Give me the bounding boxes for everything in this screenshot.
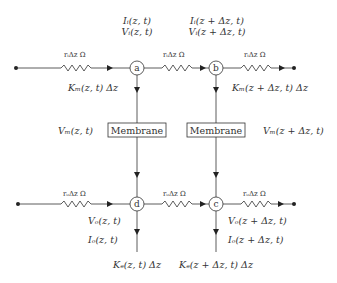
resistor-inner-mid xyxy=(162,65,192,71)
label-Vo-c: Vₒ(z + Δz, t) xyxy=(228,215,287,226)
label-Vm-left: Vₘ(z, t) xyxy=(58,125,93,136)
label-Vi-b: Vᵢ(z + Δz, t) xyxy=(189,26,246,37)
label-Ke-c: Kₑ(z + Δz, t) Δz xyxy=(178,259,254,270)
label-Ke-d: Kₑ(z, t) Δz xyxy=(112,259,162,270)
resistor-outer-mid xyxy=(162,201,192,207)
resistor-label-outer-left: rₒΔz Ω xyxy=(63,190,86,198)
label-Io-c: Iₒ(z + Δz, t) xyxy=(227,234,284,245)
resistor-label-outer-mid: rₒΔz Ω xyxy=(163,190,186,198)
label-Ii-a: Iᵢ(z, t) xyxy=(122,15,151,26)
resistor-inner-left xyxy=(61,65,91,71)
resistor-outer-left xyxy=(61,201,91,207)
node-a-label: a xyxy=(134,63,140,73)
membrane-left-label: Membrane xyxy=(111,125,164,136)
membrane-right-label: Membrane xyxy=(190,125,243,136)
resistor-inner-right xyxy=(241,65,271,71)
terminal-dot-outer-right xyxy=(292,202,296,206)
resistor-label-inner-mid: rᵢΔz Ω xyxy=(163,51,185,59)
label-Km-b: Kₘ(z + Δz, t) Δz xyxy=(231,82,309,93)
node-d-label: d xyxy=(134,199,140,209)
node-b-label: b xyxy=(213,63,219,73)
label-Io-d: Iₒ(z, t) xyxy=(87,234,118,245)
resistor-label-inner-right: rᵢΔz Ω xyxy=(244,51,266,59)
label-Vo-d: Vₒ(z, t) xyxy=(88,215,121,226)
terminal-dot-inner-right xyxy=(292,66,296,70)
label-Km-a: Kₘ(z, t) Δz xyxy=(67,82,119,93)
node-c-label: c xyxy=(213,199,218,209)
label-Vm-right: Vₘ(z + Δz, t) xyxy=(263,125,324,136)
resistor-label-outer-right: rₒΔz Ω xyxy=(243,190,266,198)
label-Ii-b: Iᵢ(z + Δz, t) xyxy=(189,15,244,26)
cable-circuit-diagram: rᵢΔz Ω rᵢΔz Ω rᵢΔz Ω a b Iᵢ(z, t) Vᵢ(z, … xyxy=(0,0,337,283)
resistor-label-inner-left: rᵢΔz Ω xyxy=(64,51,86,59)
label-Vi-a: Vᵢ(z, t) xyxy=(121,26,152,37)
resistor-outer-right xyxy=(241,201,271,207)
